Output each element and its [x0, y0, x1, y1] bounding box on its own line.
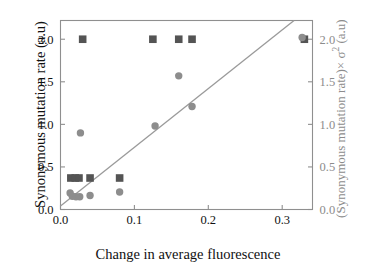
- data-point-square: [116, 174, 124, 182]
- data-point-circle: [86, 192, 93, 199]
- data-point-circle: [151, 122, 158, 129]
- data-point-square: [149, 35, 157, 43]
- y-axis-label-right: (Synonymous mutation rate)× σ2 (a.u): [331, 1, 348, 237]
- y-axis-label-left: Synonymous mutation rate (a.u): [32, 0, 49, 235]
- data-point-square: [86, 174, 94, 182]
- data-point-circle: [298, 34, 305, 41]
- y-axis-label-right-pre: (Synonymous mutation rate)× σ: [333, 52, 348, 218]
- scatter-plot: 0.00.10.20.30.00.51.01.52.00.00.51.01.52…: [0, 0, 376, 276]
- x-tick-label: 0.0: [53, 213, 69, 227]
- plot-frame: [61, 21, 313, 210]
- data-point-square: [79, 35, 87, 43]
- figure-container: 0.00.10.20.30.00.51.01.52.00.00.51.01.52…: [0, 0, 376, 276]
- data-point-square: [175, 35, 183, 43]
- x-tick-label: 0.1: [127, 213, 143, 227]
- y-axis-label-right-superscript: 2: [331, 47, 341, 52]
- data-point-circle: [77, 129, 84, 136]
- x-tick-label: 0.3: [274, 213, 290, 227]
- data-point-square: [188, 35, 196, 43]
- x-tick-label: 0.2: [200, 213, 216, 227]
- x-axis-label: Change in average fluorescence: [0, 246, 376, 263]
- linear-fit-line: [61, 21, 295, 207]
- data-point-circle: [116, 188, 123, 195]
- data-point-circle: [66, 189, 73, 196]
- data-point-circle: [175, 72, 182, 79]
- data-point-square: [75, 174, 83, 182]
- data-point-circle: [188, 103, 195, 110]
- y-axis-label-right-post: (a.u): [333, 19, 348, 46]
